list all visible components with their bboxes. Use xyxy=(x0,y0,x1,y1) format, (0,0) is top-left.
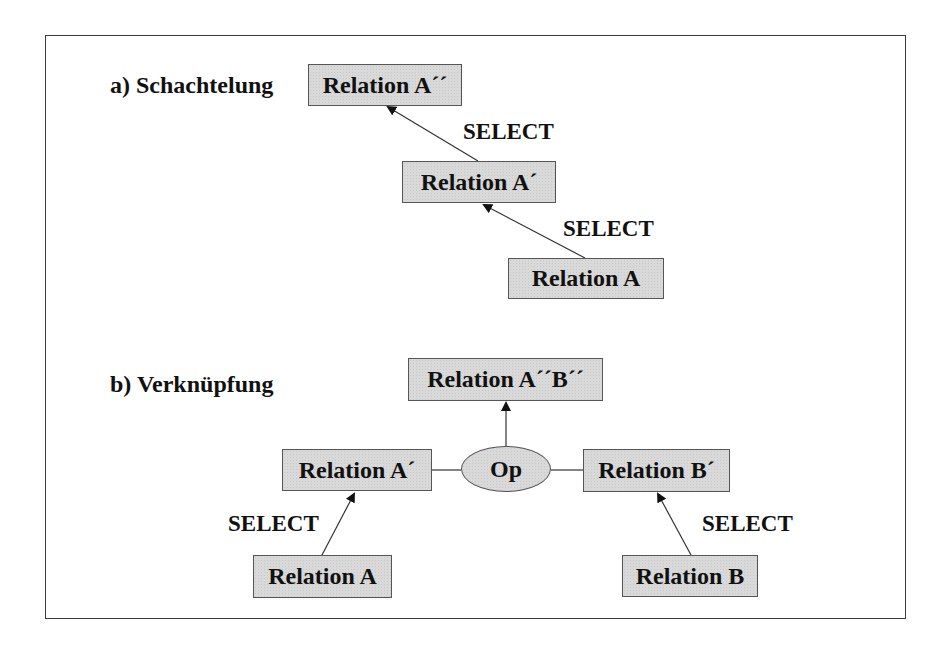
section-b-title: b) Verknüpfung xyxy=(110,372,273,396)
node-operator: Op xyxy=(461,446,551,492)
node-relation-a-double-prime: Relation A´´ xyxy=(308,64,462,106)
node-relation-a: Relation A xyxy=(508,258,664,299)
node-label: Relation A xyxy=(532,265,641,292)
edge-label-select: SELECT xyxy=(463,120,554,143)
node-relation-a-prime: Relation A´ xyxy=(402,161,556,203)
node-relation-a-prime: Relation A´ xyxy=(282,449,432,491)
node-label: Relation A´ xyxy=(421,169,538,196)
node-label: Relation B xyxy=(636,563,745,590)
node-label: Relation A´´B´´ xyxy=(427,366,584,393)
node-label: Op xyxy=(490,456,522,483)
node-label: Relation B´ xyxy=(598,457,715,484)
edge-label-select: SELECT xyxy=(563,217,654,240)
node-label: Relation A xyxy=(268,563,377,590)
node-relation-result: Relation A´´B´´ xyxy=(408,358,603,401)
node-relation-b: Relation B xyxy=(622,555,758,597)
edge-label-select: SELECT xyxy=(702,512,793,535)
section-a-title: a) Schachtelung xyxy=(110,73,273,97)
node-label: Relation A´ xyxy=(299,457,416,484)
node-relation-a: Relation A xyxy=(253,555,392,598)
edge-label-select: SELECT xyxy=(228,512,319,535)
node-label: Relation A´´ xyxy=(323,72,448,99)
node-relation-b-prime: Relation B´ xyxy=(583,449,730,492)
